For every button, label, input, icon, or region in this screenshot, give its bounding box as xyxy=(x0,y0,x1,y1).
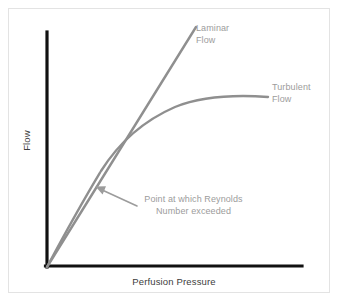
turbulent-flow-label: Turbulent Flow xyxy=(272,82,311,105)
x-axis-label: Perfusion Pressure xyxy=(46,276,302,287)
chart-figure: Laminar Flow Turbulent Flow Point at whi… xyxy=(0,0,338,307)
plot-area xyxy=(0,0,338,307)
laminar-flow-label: Laminar Flow xyxy=(196,23,229,46)
reynolds-annotation-text: Point at which Reynolds Number exceeded xyxy=(137,194,250,217)
reynolds-annotation-arrow-line xyxy=(100,189,137,206)
laminar-flow-line xyxy=(47,27,196,267)
y-axis-label: Flow xyxy=(21,111,32,171)
turbulent-flow-curve xyxy=(47,96,268,267)
